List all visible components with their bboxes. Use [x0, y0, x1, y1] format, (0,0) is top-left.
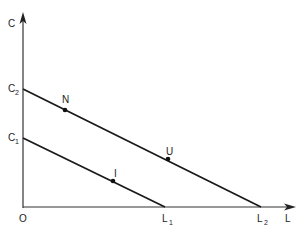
svg-text:L: L — [162, 213, 168, 224]
y-axis-label: C — [8, 18, 15, 29]
svg-text:I: I — [114, 168, 117, 179]
point-n-marker-icon — [63, 108, 68, 113]
svg-text:N: N — [62, 94, 69, 105]
upper-budget-line — [23, 89, 261, 207]
l1-intercept-label: L 1 — [162, 213, 173, 226]
svg-text:U: U — [166, 146, 173, 157]
point-n: N — [62, 94, 69, 112]
x-axis: L — [23, 204, 296, 225]
c2-intercept-label: C 2 — [8, 83, 19, 96]
x-axis-label: L — [285, 213, 291, 224]
svg-text:1: 1 — [15, 138, 19, 145]
budget-line-diagram: C L O C 2 C 1 L 1 L 2 N U I — [0, 0, 301, 229]
origin-label: O — [19, 213, 27, 224]
y-axis: C — [8, 12, 27, 208]
svg-text:2: 2 — [15, 89, 19, 96]
svg-text:L: L — [257, 213, 263, 224]
c1-intercept-label: C 1 — [8, 132, 19, 145]
l2-intercept-label: L 2 — [257, 213, 268, 226]
svg-text:2: 2 — [264, 219, 268, 226]
point-i: I — [111, 168, 117, 183]
point-u-marker-icon — [166, 157, 171, 162]
point-u: U — [166, 146, 174, 161]
point-i-marker-icon — [111, 179, 116, 184]
svg-text:1: 1 — [169, 219, 173, 226]
